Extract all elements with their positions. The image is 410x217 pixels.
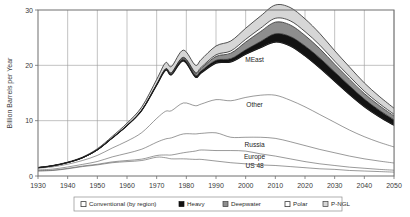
y-tick-label: 0 — [29, 173, 33, 180]
x-tick-label: 1980 — [179, 182, 195, 189]
region-label-meast: MEast — [245, 56, 264, 63]
x-tick-label: 1930 — [30, 182, 46, 189]
chart-canvas: 0102030193019401950196019701980199020002… — [0, 0, 410, 217]
region-label-russia: Russia — [244, 141, 264, 148]
x-tick-label: 2050 — [386, 182, 402, 189]
legend-label-polar: Polar — [293, 200, 307, 207]
x-tick-label: 1960 — [119, 182, 135, 189]
legend-swatch-open — [81, 202, 86, 207]
legend-swatch-deep — [223, 202, 228, 207]
y-tick-label: 20 — [25, 62, 33, 69]
x-tick-label: 1950 — [90, 182, 106, 189]
x-tick-label: 1970 — [149, 182, 165, 189]
legend-swatch-pngl — [323, 202, 328, 207]
x-tick-label: 2010 — [268, 182, 284, 189]
region-label-europe: Europe — [244, 153, 266, 161]
x-tick-label: 1990 — [208, 182, 224, 189]
legend-label-conventional-by-region-: Conventional (by region) — [89, 200, 156, 207]
x-tick-label: 2030 — [327, 182, 343, 189]
legend-label-deepwater: Deepwater — [231, 200, 261, 207]
x-tick-label: 2020 — [297, 182, 313, 189]
region-label-us-48: US 48 — [245, 162, 264, 169]
y-tick-label: 30 — [25, 7, 33, 14]
x-tick-label: 2040 — [357, 182, 373, 189]
x-tick-label: 1940 — [60, 182, 76, 189]
legend-swatch-heavy — [179, 202, 184, 207]
legend-swatch-polar — [285, 202, 290, 207]
x-tick-label: 2000 — [238, 182, 254, 189]
region-label-other: Other — [246, 101, 263, 108]
stacked-area-chart: 0102030193019401950196019701980199020002… — [0, 0, 410, 217]
y-axis-title: Billion Barrels per Year — [6, 57, 14, 128]
legend-label-heavy: Heavy — [187, 200, 205, 207]
y-tick-label: 10 — [25, 117, 33, 124]
legend-label-p-ngl: P-NGL — [331, 200, 350, 207]
